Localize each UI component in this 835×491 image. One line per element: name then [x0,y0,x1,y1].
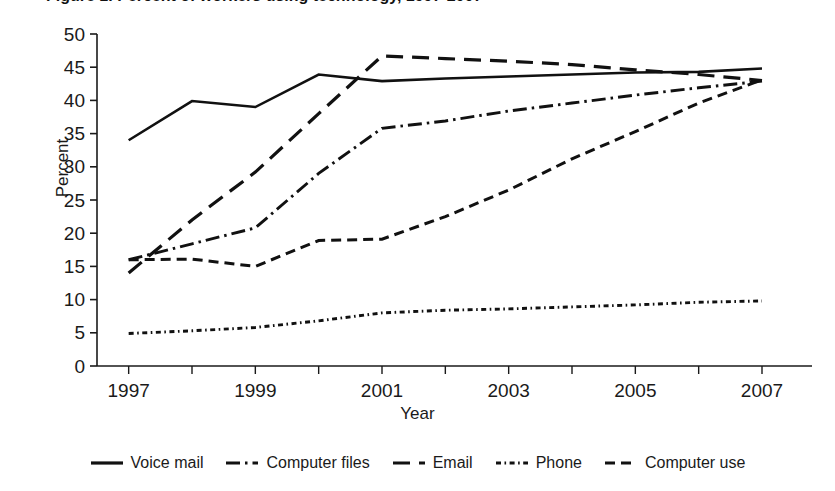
legend-swatch-dash-dot-icon [225,457,259,469]
series-line-computer-use [129,80,762,267]
chart-page: Figure 1. Percent of workers using techn… [0,0,835,491]
series-line-email [129,56,762,273]
legend-item-voice-mail[interactable]: Voice mail [90,454,204,472]
legend-swatch-dash-icon [604,457,638,469]
series-line-voice-mail [129,69,762,141]
x-tick-label: 2001 [361,380,403,401]
y-tick-label: 50 [64,24,85,45]
y-tick-label: 15 [64,256,85,277]
chart-legend: Voice mailComputer filesEmailPhoneComput… [0,447,835,479]
x-tick-label: 1997 [108,380,150,401]
series-line-computer-files [129,81,762,260]
legend-item-computer-use[interactable]: Computer use [604,454,746,472]
legend-item-computer-files[interactable]: Computer files [225,454,369,472]
y-tick-label: 40 [64,90,85,111]
y-tick-label: 5 [74,322,85,343]
legend-label: Computer files [266,454,369,472]
legend-label: Computer use [645,454,746,472]
y-tick-label: 0 [74,356,85,377]
x-axis-title: Year [0,404,835,424]
y-tick-label: 20 [64,223,85,244]
x-tick-label: 2007 [741,380,783,401]
legend-label: Email [433,454,473,472]
legend-item-email[interactable]: Email [392,454,473,472]
line-chart: 0510152025303540455019971999200120032005… [0,0,835,440]
legend-swatch-solid-icon [90,457,124,469]
legend-label: Phone [536,454,582,472]
series-layer [129,56,762,334]
y-axis-title: Percent [53,123,73,213]
legend-label: Voice mail [131,454,204,472]
series-line-phone [129,301,762,334]
y-tick-label: 10 [64,289,85,310]
legend-item-phone[interactable]: Phone [495,454,582,472]
chart-canvas: 0510152025303540455019971999200120032005… [0,0,835,440]
legend-swatch-long-dash-icon [392,457,426,469]
legend-swatch-dotted-icon [495,457,529,469]
axes-layer: 0510152025303540455019971999200120032005… [64,24,812,402]
x-tick-label: 2003 [488,380,530,401]
x-tick-label: 1999 [234,380,276,401]
x-tick-label: 2005 [614,380,656,401]
y-tick-label: 45 [64,57,85,78]
